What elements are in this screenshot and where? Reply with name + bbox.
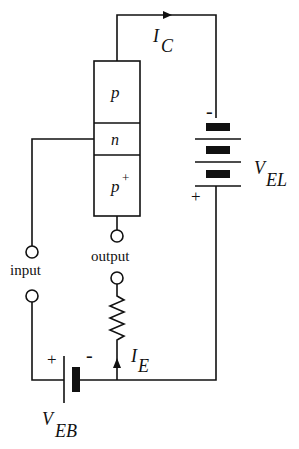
ie-arrow-icon xyxy=(113,358,121,368)
collector-wire xyxy=(117,15,216,118)
ie-symbol: I xyxy=(130,346,138,366)
vel-cell-2 xyxy=(206,146,230,154)
input-label: input xyxy=(10,262,42,278)
veb-cell xyxy=(72,367,80,392)
emitter-region-label: p xyxy=(110,177,120,196)
ic-subscript: C xyxy=(161,36,174,56)
vel-plus-sign: + xyxy=(191,187,201,206)
veb-symbol: V xyxy=(42,409,55,429)
output-terminal-bottom xyxy=(111,272,123,284)
veb-plus-sign: + xyxy=(47,350,57,369)
input-terminal-top xyxy=(26,246,38,258)
output-terminal-top xyxy=(111,230,123,242)
vel-subscript: EL xyxy=(265,170,287,190)
input-terminal-bottom xyxy=(26,290,38,302)
emitter-region-superscript: + xyxy=(122,170,129,185)
circuit-diagram: p n p + input output I C I E V EL - + V … xyxy=(0,0,299,449)
ic-arrow-icon xyxy=(163,11,172,19)
vel-cell-3 xyxy=(206,170,230,178)
right-return-wire xyxy=(80,186,216,380)
ic-symbol: I xyxy=(152,26,160,46)
veb-minus-sign: - xyxy=(86,344,93,366)
veb-subscript: EB xyxy=(54,421,77,441)
base-region-label: n xyxy=(111,131,119,148)
ie-subscript: E xyxy=(137,356,149,376)
output-label: output xyxy=(91,248,130,264)
base-wire xyxy=(32,139,94,246)
vel-minus-sign: - xyxy=(206,100,213,122)
collector-region-label: p xyxy=(110,83,120,102)
vel-cell-1 xyxy=(206,123,230,131)
